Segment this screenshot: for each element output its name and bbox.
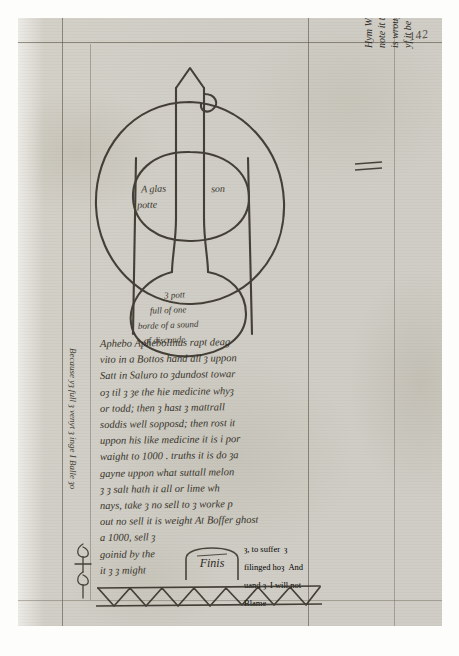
left-margin-line: Because yȝ full ȝ venyt ȝ inge I Balle ȝ… bbox=[68, 348, 78, 489]
inscription-a-glas: A glas bbox=[141, 183, 166, 195]
lattice-top-rail bbox=[98, 586, 320, 588]
flask-inscription-line-1: 3 pott bbox=[164, 289, 185, 300]
right-margin-note: yf it be not the phord crow is the lyth … bbox=[294, 42, 434, 602]
margin-flourish-icon bbox=[354, 160, 384, 174]
right-margin-line: note it thus ȝ ȝ ȝ ȝe proȝ ghe hath ȝnd bbox=[376, 18, 387, 48]
finis-label: Finis bbox=[183, 556, 241, 571]
pen-flourish-icon bbox=[70, 542, 96, 600]
upper-bulb bbox=[133, 152, 249, 241]
alchemical-vessel-diagram: A glas potte son 3 pott full of one bord… bbox=[80, 66, 290, 356]
right-limb bbox=[248, 158, 252, 334]
leaf-gutter-shading bbox=[18, 18, 44, 626]
neck-left-wall bbox=[172, 88, 176, 272]
folio-leaf: 142 bbox=[18, 18, 442, 626]
neck-right-wall bbox=[204, 88, 208, 272]
flask-inscription-line-2: full of one bbox=[150, 304, 187, 315]
inscription-son: son bbox=[211, 183, 225, 194]
neck-finial bbox=[176, 68, 204, 88]
lattice-ornament bbox=[96, 584, 322, 610]
lattice-zigzag bbox=[98, 587, 320, 606]
ruling-line-left-outer bbox=[62, 18, 63, 626]
left-limb bbox=[133, 158, 136, 334]
finis-cartouche: Finis bbox=[183, 547, 241, 581]
right-margin-line: yf it be not the phord crow is the lyth … bbox=[402, 18, 413, 48]
outer-circle bbox=[96, 102, 284, 304]
body-tail-line: ȝ, to suffer bbox=[244, 544, 280, 554]
inscription-potte: potte bbox=[137, 199, 157, 211]
flask-inscription-line-3: borde of a sound bbox=[138, 319, 199, 331]
manuscript-page: 142 bbox=[0, 0, 459, 656]
right-margin-line: is wrought ȝ ȝe ȝn that is of it any tha… bbox=[389, 18, 400, 48]
zigzag-lattice-border bbox=[96, 584, 322, 610]
right-margin-line: Hym Wroht = bbox=[363, 18, 374, 48]
